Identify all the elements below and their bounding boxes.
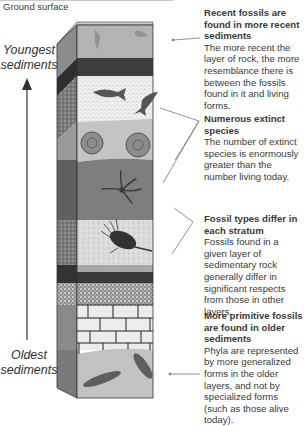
oldest-sediments-label: Oldest sediments [0, 348, 58, 378]
fossil-ammonite-icon [81, 132, 103, 154]
age-axis-arrow [22, 78, 32, 340]
column-front-face [77, 25, 153, 398]
fossil-ammonite-icon [126, 133, 150, 157]
ground-surface-label: Ground surface [3, 1, 68, 12]
column-side-face [57, 25, 77, 398]
annotation-recent-fossils: Recent fossils are found in more recent … [204, 7, 304, 111]
annotation-fossil-types-differ: Fossil types differ in each stratum Foss… [204, 213, 304, 317]
youngest-sediments-label: Youngest sediments [0, 43, 58, 73]
annotation-extinct-species: Numerous extinct species The number of e… [204, 113, 304, 183]
annotation-primitive-fossils: More primitive fossils are found in olde… [204, 310, 304, 426]
